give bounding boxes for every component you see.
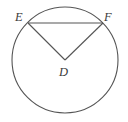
geometry-figure: E F D [0, 0, 128, 122]
radius-df [65, 23, 103, 60]
vertex-label-e: E [15, 11, 23, 24]
vertex-label-f: F [104, 11, 112, 24]
vertex-label-d: D [59, 66, 68, 79]
radius-de [28, 23, 65, 60]
